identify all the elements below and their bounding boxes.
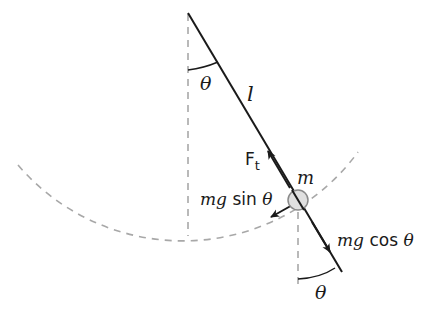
mg-cos-label: mg cos θ (337, 230, 414, 250)
mg-cos-arrow (312, 222, 330, 252)
tension-label: Ft (245, 149, 260, 173)
theta-arc-top (188, 62, 218, 70)
mass-label: m (297, 167, 314, 188)
mg-sin-label: mg sin θ (200, 189, 272, 209)
theta-label-top: θ (200, 72, 212, 94)
theta-label-bottom: θ (315, 281, 327, 303)
pendulum-diagram: θ l Ft m mg sin θ mg cos θ θ (0, 0, 442, 314)
length-label: l (247, 82, 254, 106)
theta-arc-bottom (298, 268, 335, 279)
tension-arrow (268, 151, 290, 188)
